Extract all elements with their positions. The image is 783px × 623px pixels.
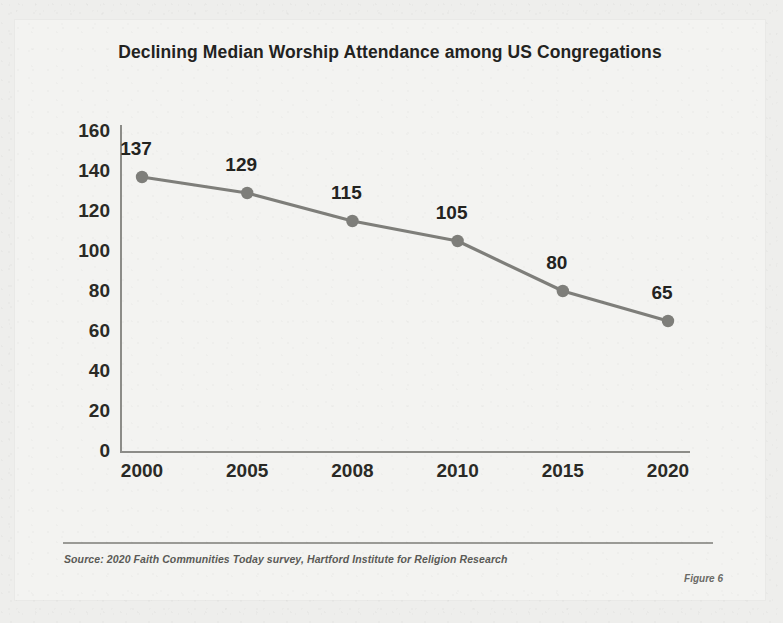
data-label-2010: 105 xyxy=(436,202,468,224)
data-point-2020 xyxy=(662,315,674,327)
plot-area: 160140120100806040200 200020052008201020… xyxy=(15,20,765,600)
data-point-2000 xyxy=(136,171,148,183)
data-label-2008: 115 xyxy=(331,182,362,204)
data-point-2005 xyxy=(241,187,253,199)
source-note: Source: 2020 Faith Communities Today sur… xyxy=(64,553,508,565)
data-label-2020: 65 xyxy=(651,282,672,304)
data-point-2008 xyxy=(346,215,358,227)
source-divider xyxy=(63,542,713,544)
attendance-line-series xyxy=(15,20,765,600)
data-label-2015: 80 xyxy=(546,252,567,274)
data-label-2000: 137 xyxy=(120,138,152,160)
scanned-page: Declining Median Worship Attendance amon… xyxy=(0,0,783,623)
figure-caption: Figure 6 xyxy=(684,573,723,584)
figure-card: Declining Median Worship Attendance amon… xyxy=(15,20,765,600)
data-point-2015 xyxy=(557,285,569,297)
data-label-2005: 129 xyxy=(225,154,257,176)
data-point-2010 xyxy=(451,235,463,247)
series-line xyxy=(142,177,668,321)
